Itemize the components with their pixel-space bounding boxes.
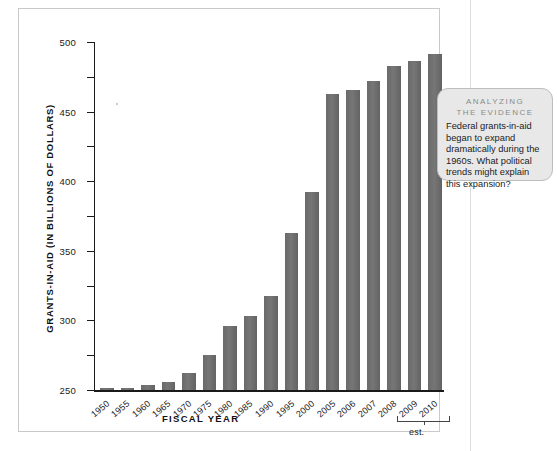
bar-1975 — [203, 355, 217, 390]
callout-body-text: Federal grants-in-aid began to expand dr… — [446, 121, 544, 191]
x-axis-label-1995: 1995 — [274, 398, 296, 419]
bar-1970 — [182, 373, 196, 390]
y-axis-tick: 300 — [87, 181, 94, 182]
callout-title-line-1: ANALYZING — [446, 96, 544, 107]
chart-plot-area: 050100150200250300350400450500 195019551… — [94, 42, 444, 390]
x-axis-label-2007: 2007 — [356, 398, 378, 419]
bar-1995 — [285, 233, 299, 390]
y-axis-title: GRANTS-IN-AID (IN BILLIONS OF DOLLARS) — [44, 104, 58, 333]
x-axis-label-1990: 1990 — [253, 398, 275, 419]
bar-1990 — [264, 296, 278, 390]
y-axis-tick-label: 500 — [60, 37, 76, 48]
x-axis-line — [94, 390, 444, 392]
analyzing-the-evidence-callout: ANALYZING THE EVIDENCE Federal grants-in… — [437, 88, 553, 181]
bar-1950 — [100, 388, 114, 390]
x-axis-label-2005: 2005 — [315, 398, 337, 419]
x-axis-label-1955: 1955 — [109, 398, 131, 419]
y-axis-tick-label: 250 — [60, 385, 76, 396]
y-axis-tick: 400 — [87, 112, 94, 113]
bar-1980 — [223, 326, 237, 390]
y-axis-tick-label: 300 — [60, 315, 76, 326]
callout-title: ANALYZING THE EVIDENCE — [446, 96, 544, 118]
y-axis-tick: 150 — [87, 286, 94, 287]
bar-1955 — [121, 388, 135, 390]
bar-1985 — [244, 316, 258, 390]
y-axis-tick-label: 400 — [60, 176, 76, 187]
bar-2009 — [408, 61, 422, 390]
x-axis-label-2008: 2008 — [376, 398, 398, 419]
bar-2000 — [305, 192, 319, 390]
estimate-label: est. — [409, 427, 424, 437]
y-axis-tick: 450 — [87, 77, 94, 78]
y-axis-tick: 250 — [87, 216, 94, 217]
y-axis-tick: 0 — [87, 390, 94, 391]
page-divider-rule — [470, 0, 471, 451]
bar-1960 — [141, 385, 155, 390]
y-axis-tick: 100 — [87, 320, 94, 321]
bar-1965 — [162, 382, 176, 390]
y-axis-tick-label: 450 — [60, 106, 76, 117]
x-axis-label-1950: 1950 — [89, 398, 111, 419]
estimate-bracket — [397, 416, 450, 426]
x-axis-label-1960: 1960 — [130, 398, 152, 419]
bar-2005 — [326, 94, 340, 390]
callout-title-line-2: THE EVIDENCE — [446, 107, 544, 118]
x-axis-label-2006: 2006 — [335, 398, 357, 419]
bar-series — [95, 42, 444, 390]
x-axis-label-2000: 2000 — [294, 398, 316, 419]
bar-2006 — [346, 90, 360, 390]
bar-2007 — [367, 81, 381, 390]
y-axis-tick: 350 — [87, 146, 94, 147]
bar-2008 — [387, 66, 401, 390]
y-axis-tick: 50 — [87, 355, 94, 356]
y-axis-tick: 500 — [87, 42, 94, 43]
figure-frame: GRANTS-IN-AID (IN BILLIONS OF DOLLARS) 0… — [18, 8, 440, 432]
y-axis-tick-label: 350 — [60, 245, 76, 256]
y-axis-tick: 200 — [87, 251, 94, 252]
x-axis-title: FISCAL YEAR — [162, 413, 239, 424]
